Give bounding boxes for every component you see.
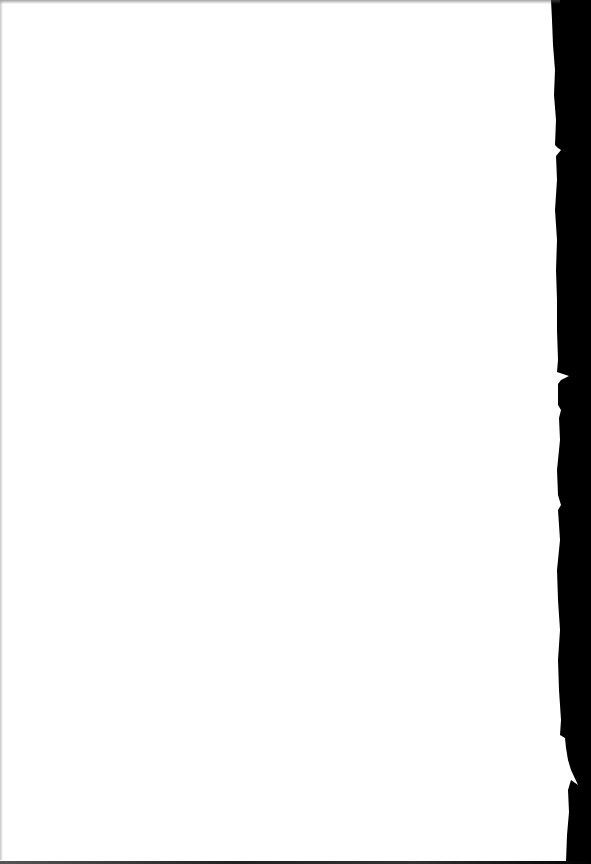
scanned-document <box>0 0 591 864</box>
blank-paper-sheet <box>0 0 591 864</box>
torn-paper-shape <box>0 0 591 864</box>
